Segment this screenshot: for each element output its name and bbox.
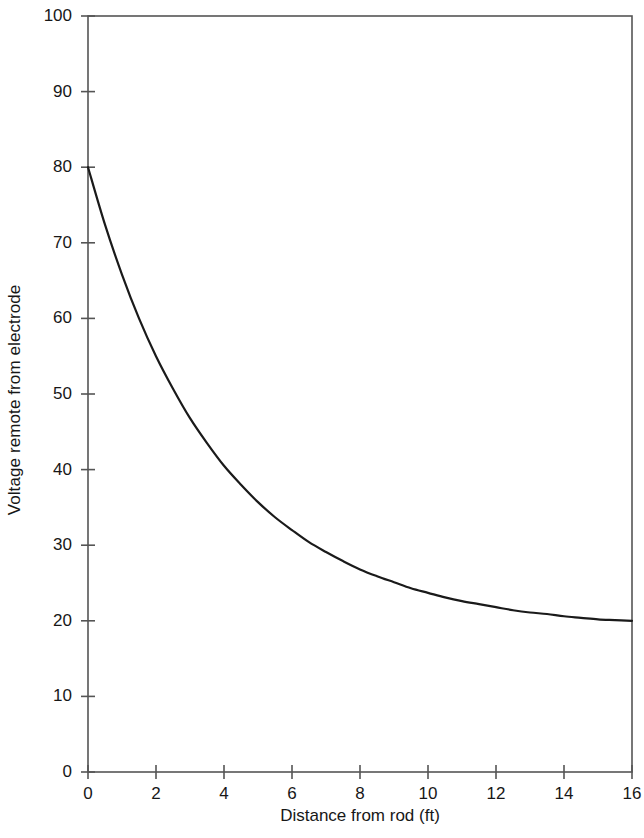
y-tick-label-100: 100 — [0, 6, 72, 26]
y-tick-label-90: 90 — [0, 82, 72, 102]
x-axis-label-text: Distance from rod (ft) — [280, 806, 440, 825]
x-tick-label-8: 8 — [355, 784, 364, 804]
plot-frame — [88, 16, 632, 772]
y-tick-label-30: 30 — [0, 535, 72, 555]
chart-figure: Voltage remote from electrode 0102030405… — [0, 0, 644, 838]
plot-area — [0, 0, 644, 838]
x-tick-label-0: 0 — [83, 784, 92, 804]
y-tick-label-80: 80 — [0, 157, 72, 177]
y-tick-label-50: 50 — [0, 384, 72, 404]
x-tick-label-16: 16 — [623, 784, 642, 804]
y-tick-label-60: 60 — [0, 308, 72, 328]
x-tick-label-10: 10 — [419, 784, 438, 804]
y-tick-label-40: 40 — [0, 460, 72, 480]
x-tick-label-6: 6 — [287, 784, 296, 804]
data-series-line-0 — [88, 167, 632, 621]
y-tick-label-20: 20 — [0, 611, 72, 631]
x-tick-label-4: 4 — [219, 784, 228, 804]
x-tick-label-12: 12 — [487, 784, 506, 804]
x-tick-label-2: 2 — [151, 784, 160, 804]
x-tick-label-14: 14 — [555, 784, 574, 804]
y-tick-label-70: 70 — [0, 233, 72, 253]
y-tick-label-10: 10 — [0, 686, 72, 706]
y-tick-label-0: 0 — [0, 762, 72, 782]
x-axis-label: Distance from rod (ft) — [88, 806, 632, 826]
